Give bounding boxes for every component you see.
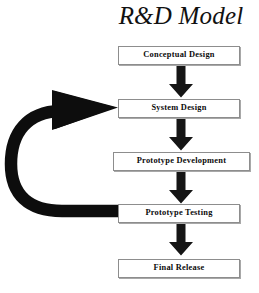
process-box-label: System Design: [151, 104, 206, 112]
process-box-prototype-testing[interactable]: Prototype Testing: [118, 204, 240, 223]
down-arrow-icon: [168, 172, 194, 204]
process-box-conceptual-design[interactable]: Conceptual Design: [118, 46, 240, 65]
process-box-label: Prototype Testing: [145, 209, 212, 217]
process-box-system-design[interactable]: System Design: [118, 99, 240, 118]
process-box-prototype-development[interactable]: Prototype Development: [113, 152, 250, 171]
down-arrow-icon: [168, 224, 194, 256]
process-box-label: Prototype Development: [137, 157, 227, 165]
down-arrow-icon: [168, 66, 194, 98]
process-box-final-release[interactable]: Final Release: [118, 259, 240, 278]
feedback-loop-arrow: [2, 84, 127, 219]
diagram-canvas: R&D Model Conceptual Design System Desig…: [0, 0, 259, 293]
down-arrow-icon: [168, 119, 194, 151]
process-box-label: Final Release: [154, 264, 205, 272]
page-title: R&D Model: [105, 1, 257, 31]
process-box-label: Conceptual Design: [143, 51, 215, 59]
